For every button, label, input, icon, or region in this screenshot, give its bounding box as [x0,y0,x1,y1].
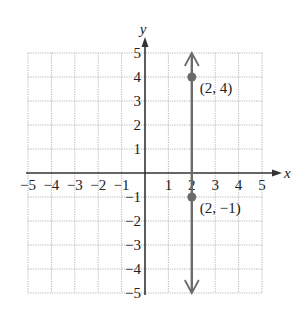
x-tick-label: −5 [20,177,36,193]
coordinate-plane: −5−4−3−2−112345−5−4−3−2−112345 (2, 4)(2,… [0,0,305,315]
x-tick-label: 4 [235,177,243,193]
x-tick-label: −3 [67,177,83,193]
y-tick-label: 5 [134,45,142,61]
points-layer: (2, 4)(2, −1) [187,73,240,218]
y-tick-label: −5 [125,285,141,301]
axes [26,37,282,295]
x-axis-label: x [283,165,291,181]
y-axis-arrow-icon [142,37,149,47]
data-point [187,73,196,82]
data-point [187,193,196,202]
y-tick-label: −2 [125,213,141,229]
y-tick-label: −1 [125,189,141,205]
y-tick-label: 3 [134,93,142,109]
point-label: (2, 4) [200,80,233,97]
y-tick-label: −3 [125,237,141,253]
point-label: (2, −1) [200,200,241,217]
y-tick-label: 1 [134,141,142,157]
x-tick-label: 1 [165,177,173,193]
y-tick-label: −4 [125,261,141,277]
x-axis-arrow-icon [272,170,282,177]
x-tick-label: −2 [90,177,106,193]
x-tick-label: 5 [258,177,266,193]
x-tick-label: 3 [211,177,219,193]
y-axis-label: y [138,21,147,37]
y-tick-label: 4 [134,69,142,85]
x-tick-label: −4 [43,177,59,193]
y-tick-label: 2 [134,117,142,133]
